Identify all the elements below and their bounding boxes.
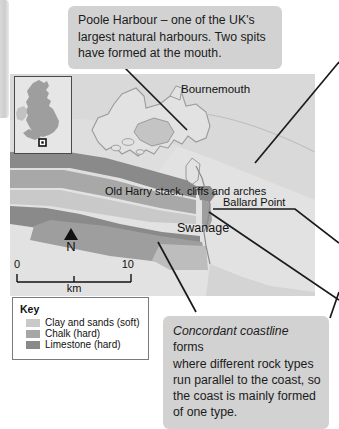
- scale-bar-min: 0: [14, 258, 20, 270]
- callout-concordant-line-4: the coast is mainly formed: [173, 388, 321, 404]
- key-swatch-clay-and-sands: [26, 319, 40, 327]
- key-label-chalk: Chalk (hard): [45, 328, 100, 339]
- map-label-old-harry-line-2: cliffs and arches: [187, 185, 266, 197]
- callout-concordant-line-5: of one type.: [173, 404, 321, 420]
- map-label-ballard-point: Ballard Point: [223, 196, 285, 209]
- scale-bar: 0 10 km: [14, 258, 134, 294]
- key-label-limestone: Limestone (hard): [45, 339, 121, 350]
- callout-concordant-line-3: run parallel to the coast, so: [173, 372, 321, 388]
- map-key-title: Key: [20, 303, 142, 315]
- scale-bar-max: 10: [122, 258, 134, 270]
- leader-line-concordant-right: [330, 292, 339, 318]
- callout-concordant-line-1-rest: forms: [173, 340, 204, 354]
- north-arrow: N: [59, 228, 83, 254]
- key-label-clay-and-sands: Clay and sands (soft): [45, 317, 140, 328]
- map-key: Key Clay and sands (soft) Chalk (hard) L…: [12, 297, 149, 360]
- map-label-bournemouth: Bournemouth: [181, 83, 250, 96]
- callout-poole-harbour: Poole Harbour – one of the UK's largest …: [68, 6, 282, 69]
- north-arrow-label: N: [59, 240, 83, 254]
- uk-inset-graphic: [15, 77, 71, 153]
- callout-concordant-line-1: Concordant coastline forms: [173, 323, 321, 356]
- callout-concordant-line-2: where different rock types: [173, 356, 321, 372]
- key-swatch-chalk: [26, 330, 40, 338]
- callout-poole-line-1: Poole Harbour – one of the UK's: [78, 12, 274, 29]
- callout-poole-line-3: have formed at the mouth.: [78, 45, 274, 62]
- map-label-old-harry: Old Harry stack, cliffs and arches: [105, 185, 266, 198]
- uk-locator-inset: [14, 76, 72, 154]
- scale-bar-unit: km: [14, 282, 134, 294]
- callout-concordant-coastline: Concordant coastline forms where differe…: [163, 316, 329, 429]
- map-label-swanage: Swanage: [177, 222, 229, 235]
- key-item-chalk: Chalk (hard): [26, 328, 142, 339]
- callout-poole-line-2: largest natural harbours. Two spits: [78, 29, 274, 46]
- page-edge-strip: [0, 0, 9, 118]
- key-item-clay-and-sands: Clay and sands (soft): [26, 317, 142, 328]
- map-label-old-harry-line-1: Old Harry stack,: [105, 185, 184, 197]
- scale-bar-numbers: 0 10: [14, 258, 134, 272]
- callout-concordant-term: Concordant coastline: [173, 324, 289, 338]
- key-item-limestone: Limestone (hard): [26, 339, 142, 350]
- key-swatch-limestone: [26, 341, 40, 349]
